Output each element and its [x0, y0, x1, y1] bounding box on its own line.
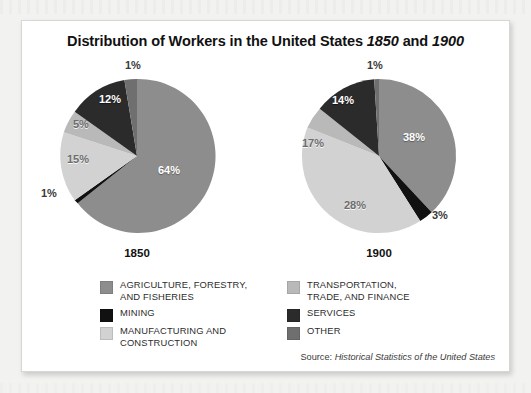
legend-label-services: SERVICES — [307, 307, 462, 319]
legend-swatch-mining-icon — [100, 309, 113, 322]
chart-title-text-part1: Distribution of Workers in the United St… — [67, 33, 367, 49]
legend-swatch-manufacturing-icon — [100, 327, 113, 340]
pie-1850-label-manufacturing: 15% — [67, 153, 89, 165]
legend-item-manufacturing: MANUFACTURING AND CONSTRUCTION — [100, 325, 260, 350]
scan-artifact-top — [0, 0, 531, 14]
legend-label-other: OTHER — [307, 325, 462, 337]
legend-label-manufacturing-line1: MANUFACTURING AND — [120, 325, 260, 337]
pie-1850-label-transportation: 5% — [73, 118, 89, 130]
chart-title-year-1900: 1900 — [432, 33, 464, 49]
pie-1850-caption: 1850 — [32, 247, 242, 259]
legend-item-services: SERVICES — [287, 307, 462, 322]
page-background: Distribution of Workers in the United St… — [0, 0, 531, 393]
legend-label-manufacturing-line2: CONSTRUCTION — [120, 337, 260, 349]
legend-label-transportation-line2: TRADE, AND FINANCE — [307, 291, 462, 303]
legend-swatch-services-icon — [287, 309, 300, 322]
pie-1900-label-transportation: 17% — [302, 137, 324, 149]
legend-label-transportation-line1: TRANSPORTATION, — [307, 279, 462, 291]
legend-swatch-agriculture-icon — [100, 281, 113, 294]
legend-column-left: AGRICULTURE, FORESTRY, AND FISHERIES MIN… — [100, 279, 260, 353]
legend-item-agriculture: AGRICULTURE, FORESTRY, AND FISHERIES — [100, 279, 260, 304]
source-label: Source: — [300, 352, 334, 362]
pie-1900-label-manufacturing: 28% — [344, 199, 366, 211]
pie-1850-label-other: 1% — [125, 59, 141, 71]
legend-label-mining: MINING — [120, 307, 260, 319]
pie-1850-label-agriculture: 64% — [158, 164, 180, 176]
legend-label-agriculture-line1: AGRICULTURE, FORESTRY, — [120, 279, 260, 291]
pie-1900-graphic: 38% 3% 28% 17% 14% 1% — [274, 61, 484, 246]
pie-1900-label-other: 1% — [367, 59, 383, 71]
chart-title-text-and: and — [399, 33, 432, 49]
chart-legend: AGRICULTURE, FORESTRY, AND FISHERIES MIN… — [22, 279, 509, 351]
chart-title: Distribution of Workers in the United St… — [22, 33, 509, 49]
source-note: Source: Historical Statistics of the Uni… — [300, 352, 495, 362]
source-title: Historical Statistics of the United Stat… — [335, 352, 495, 362]
legend-item-mining: MINING — [100, 307, 260, 322]
legend-item-other: OTHER — [287, 325, 462, 340]
figure-card: Distribution of Workers in the United St… — [21, 20, 510, 372]
pie-1900-label-services: 14% — [332, 94, 354, 106]
scan-artifact-bottom — [0, 383, 531, 393]
pie-1900-label-mining: 3% — [432, 209, 448, 221]
pie-chart-1900: 38% 3% 28% 17% 14% 1% 1900 — [274, 61, 484, 276]
pie-1900-svg — [274, 61, 484, 246]
chart-title-year-1850: 1850 — [367, 33, 399, 49]
legend-column-right: TRANSPORTATION, TRADE, AND FINANCE SERVI… — [287, 279, 462, 343]
pie-1850-label-services: 12% — [99, 93, 121, 105]
legend-swatch-other-icon — [287, 327, 300, 340]
pie-chart-1850: 64% 1% 15% 5% 12% 1% 1850 — [32, 61, 242, 276]
legend-swatch-transportation-icon — [287, 281, 300, 294]
pie-1850-label-mining: 1% — [41, 187, 57, 199]
legend-item-transportation: TRANSPORTATION, TRADE, AND FINANCE — [287, 279, 462, 304]
pie-1900-caption: 1900 — [274, 247, 484, 259]
pie-1850-graphic: 64% 1% 15% 5% 12% 1% — [32, 61, 242, 246]
legend-label-agriculture-line2: AND FISHERIES — [120, 291, 260, 303]
pie-1850-svg — [32, 61, 242, 246]
pie-1900-label-agriculture: 38% — [403, 131, 425, 143]
